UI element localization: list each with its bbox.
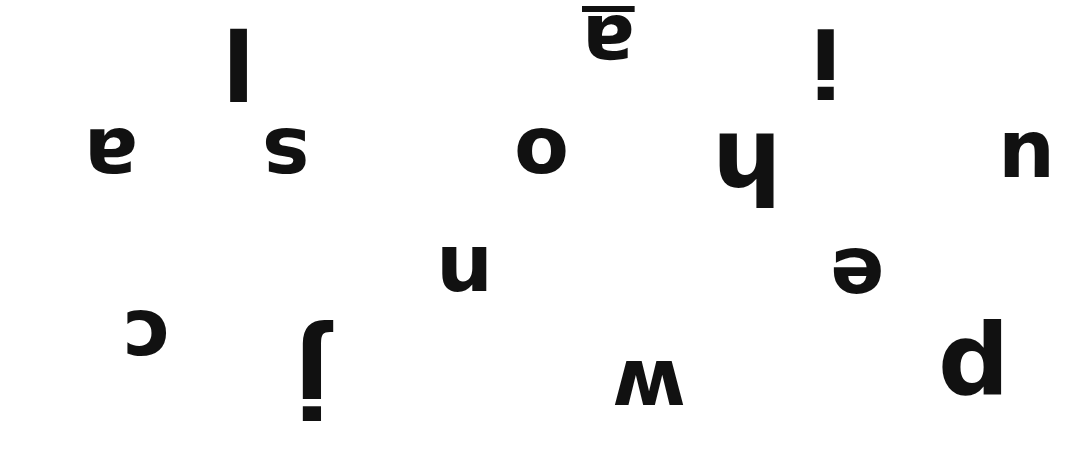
letter-s: s: [262, 116, 310, 196]
letter-n: n: [436, 234, 493, 314]
letter-j: j: [294, 326, 330, 430]
letter-l: l: [222, 14, 255, 110]
letter-a: a: [84, 116, 138, 196]
letter-w: w: [612, 348, 686, 428]
letter-p: p: [938, 324, 1010, 424]
letter-a-underlined: a: [582, 4, 635, 82]
letter-i: i: [810, 14, 842, 106]
letter-h: h: [712, 118, 782, 216]
letter-u: u: [998, 120, 1055, 200]
letter-o: o: [514, 116, 569, 196]
letter-e: e: [830, 236, 884, 316]
letter-c: c: [122, 298, 169, 378]
